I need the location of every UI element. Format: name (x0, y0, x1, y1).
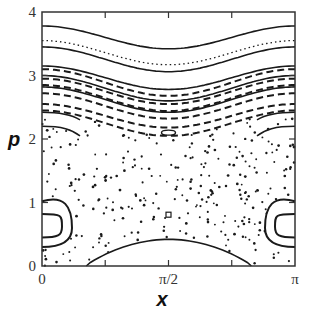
scatter-point (236, 183, 239, 186)
scatter-point (207, 218, 209, 220)
invariant-curve (42, 110, 295, 135)
scatter-point (285, 168, 288, 171)
scatter-point (56, 131, 58, 133)
scatter-point (216, 204, 218, 206)
scatter-point (283, 170, 285, 172)
scatter-point (88, 259, 90, 261)
scatter-point (208, 145, 211, 148)
scatter-point (139, 199, 142, 202)
scatter-point (152, 202, 154, 204)
scatter-point (241, 184, 243, 186)
scatter-point (110, 176, 112, 178)
tick-labels: 0π/2π01234 (29, 4, 300, 287)
scatter-point (75, 144, 77, 146)
scatter-point (261, 201, 263, 203)
scatter-point (135, 195, 137, 197)
scatter-point (291, 117, 294, 120)
scatter-point (234, 220, 236, 222)
scatter-point (220, 230, 222, 232)
scatter-point (182, 178, 184, 180)
scatter-point (204, 162, 206, 164)
scatter-point (44, 249, 46, 251)
scatter-point (97, 199, 99, 201)
scatter-point (217, 158, 219, 160)
scatter-point (265, 152, 267, 154)
scatter-point (83, 173, 86, 176)
resonance-island-inner (275, 214, 295, 237)
scatter-point (136, 239, 139, 242)
scatter-point (155, 193, 157, 195)
scatter-point (187, 212, 189, 214)
scatter-point (105, 207, 107, 209)
scatter-point (238, 189, 240, 191)
scatter-point (243, 216, 245, 218)
scatter-point (241, 155, 244, 158)
scatter-point (122, 135, 124, 137)
scatter-point (225, 244, 227, 246)
scatter-point (209, 135, 212, 138)
scatter-point (261, 136, 263, 138)
scatter-point (273, 257, 276, 260)
scatter-point (141, 168, 143, 170)
scatter-point (46, 129, 49, 132)
scatter-point (228, 250, 230, 252)
scatter-point (284, 187, 287, 190)
y-tick-label: 1 (29, 195, 37, 211)
scatter-point (122, 162, 124, 164)
scatter-point (131, 208, 133, 210)
scatter-point (55, 188, 57, 190)
scatter-point (112, 201, 114, 203)
scatter-point (48, 173, 50, 175)
scatter-point (276, 149, 278, 151)
scatter-point (82, 204, 85, 207)
scatter-point (122, 157, 125, 160)
scatter-point (225, 185, 227, 187)
scatter-point (248, 218, 250, 220)
scatter-point (240, 198, 242, 200)
scatter-point (206, 235, 208, 237)
scatter-point (285, 118, 287, 120)
scatter-point (289, 168, 291, 170)
scatter-point (163, 230, 166, 233)
scatter-point (98, 237, 100, 239)
y-tick-label: 0 (29, 258, 37, 274)
scatter-point (134, 164, 136, 166)
scatter-point (159, 175, 161, 177)
scatter-point (214, 182, 216, 184)
scatter-point (206, 151, 209, 154)
scatter-point (244, 203, 246, 205)
scatter-point (207, 221, 210, 224)
scatter-point (143, 204, 146, 207)
scatter-point (140, 220, 143, 223)
scatter-point (179, 230, 181, 232)
scatter-point (213, 202, 215, 204)
y-tick-label: 4 (29, 4, 37, 20)
scatter-point (292, 143, 295, 146)
scatter-point (172, 139, 174, 141)
scatter-point (142, 181, 144, 183)
scatter-point (185, 222, 188, 225)
scatter-point (128, 137, 130, 139)
x-tick-label: π (291, 271, 299, 287)
scatter-point (174, 166, 176, 168)
scatter-point (200, 185, 202, 187)
invariant-curve (42, 66, 295, 90)
scatter-point (70, 182, 73, 185)
scatter-point (123, 169, 126, 172)
scatter-point (81, 235, 83, 237)
scatter-point (212, 139, 214, 141)
scatter-point (200, 174, 202, 176)
y-tick-label: 2 (29, 131, 37, 147)
scatter-point (239, 174, 241, 176)
scatter-point (174, 198, 176, 200)
scatter-point (98, 124, 101, 127)
scatter-point (271, 151, 273, 153)
scatter-point (258, 229, 261, 232)
scatter-point (55, 261, 58, 264)
scatter-point (119, 189, 122, 192)
scatter-point (176, 186, 178, 188)
scatter-point (189, 181, 192, 184)
scatter-point (192, 156, 194, 158)
scatter-point (86, 134, 88, 136)
scatter-point (52, 163, 55, 166)
